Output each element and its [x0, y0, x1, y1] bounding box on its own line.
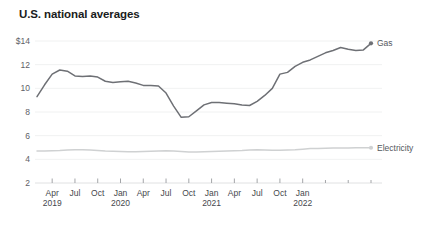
y-tick-label-2: 2 — [25, 178, 30, 188]
x-axis-labels-group: Apr2019JulOctJan2020AprJulOctJan2021AprJ… — [43, 188, 313, 208]
y-tick-label-12: 12 — [21, 60, 31, 70]
series-label-electricity: Electricity — [377, 143, 414, 153]
x-axis-ticks-group — [52, 179, 371, 184]
x-tick-label-year: 2019 — [43, 198, 62, 208]
y-tick-label-6: 6 — [25, 131, 30, 141]
y-tick-label-4: 4 — [25, 154, 30, 164]
y-tick-label-10: 10 — [21, 83, 31, 93]
x-tick-label-month: Oct — [273, 188, 287, 198]
series-line-electricity — [37, 148, 371, 152]
x-tick-label-month: Apr — [228, 188, 241, 198]
series-endpoint-dot-gas — [369, 41, 373, 45]
x-tick-label-month: Oct — [91, 188, 105, 198]
x-tick-label-month: Jan — [114, 188, 128, 198]
x-tick-label-year: 2020 — [111, 198, 130, 208]
x-tick-label-year: 2022 — [293, 198, 312, 208]
y-axis-labels-group: 24681012$14 — [16, 36, 30, 188]
series-label-gas: Gas — [377, 38, 393, 48]
x-tick-label-month: Apr — [137, 188, 150, 198]
y-tick-label-8: 8 — [25, 107, 30, 117]
line-chart-svg: 24681012$14 Apr2019JulOctJan2020AprJulOc… — [0, 0, 438, 231]
x-tick-label-month: Jul — [70, 188, 81, 198]
series-end-labels-group: GasElectricity — [377, 38, 414, 152]
x-tick-label-year: 2021 — [202, 198, 221, 208]
chart-container: U.S. national averages 24681012$14 Apr20… — [0, 0, 438, 231]
gridlines-group — [35, 41, 382, 183]
series-line-gas — [37, 43, 371, 117]
x-tick-label-month: Jan — [296, 188, 310, 198]
x-tick-label-month: Apr — [46, 188, 59, 198]
x-tick-label-month: Jul — [252, 188, 263, 198]
y-tick-label-14: $14 — [16, 36, 30, 46]
x-tick-label-month: Oct — [182, 188, 196, 198]
x-tick-label-month: Jan — [205, 188, 219, 198]
series-endpoint-dot-electricity — [369, 146, 373, 150]
x-tick-label-month: Jul — [161, 188, 172, 198]
